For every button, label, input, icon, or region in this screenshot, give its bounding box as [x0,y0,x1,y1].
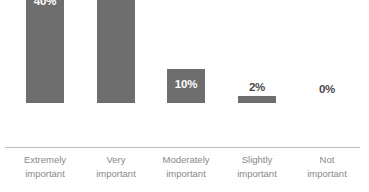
category-axis-labels: Extremely important Very important Moder… [0,153,369,192]
category-label-line-1: Slightly [219,153,295,167]
category-label-extremely-important: Extremely important [7,153,83,180]
bar-group-very-important: 47% [81,0,151,103]
bar-chart: 40% 47% 10% 2% 0% Extremely important [0,0,369,192]
bar-group-not-important: 0% [292,0,362,103]
category-label-very-important: Very important [78,153,154,180]
category-label-slightly-important: Slightly important [219,153,295,180]
plot-area: 40% 47% 10% 2% 0% [0,0,369,148]
category-label-line-1: Moderately [148,153,224,167]
bar-slightly-important[interactable] [238,96,276,103]
bar-very-important[interactable]: 47% [97,0,135,103]
category-label-line-2: important [219,167,295,181]
category-label-line-2: important [7,167,83,181]
bar-group-extremely-important: 40% [10,0,80,103]
category-label-not-important: Not important [289,153,365,180]
category-axis-line [5,147,360,148]
bar-extremely-important[interactable]: 40% [26,0,64,103]
category-label-line-1: Very [78,153,154,167]
bar-value-label: 2% [249,81,265,93]
category-label-line-1: Not [289,153,365,167]
category-label-line-1: Extremely [7,153,83,167]
category-label-line-2: important [78,167,154,181]
category-label-moderately-important: Moderately important [148,153,224,180]
bar-moderately-important[interactable]: 10% [167,69,205,103]
category-label-line-2: important [289,167,365,181]
bar-value-label: 10% [167,78,205,90]
bar-group-slightly-important: 2% [222,0,292,103]
bar-value-label: 0% [319,83,335,95]
bar-value-label: 40% [26,0,64,7]
category-label-line-2: important [148,167,224,181]
bar-group-moderately-important: 10% [151,0,221,103]
